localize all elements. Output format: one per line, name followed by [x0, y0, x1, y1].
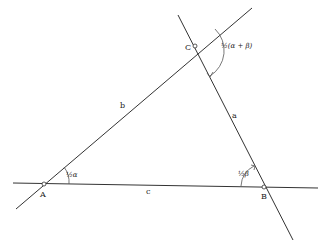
- side-label-b: b: [120, 101, 125, 110]
- side-label-a: a: [232, 111, 237, 120]
- side-label-c: c: [146, 187, 151, 196]
- angle-arc-c: [210, 29, 224, 76]
- triangle-diagram: A B C a b c ½α ½β ½(α + β): [0, 0, 327, 251]
- angle-label-a: ½α: [66, 171, 78, 179]
- vertex-a-marker: [42, 182, 46, 186]
- vertex-c-marker: [193, 44, 197, 48]
- line-ac: [16, 8, 252, 209]
- angle-label-b: ½β: [238, 170, 249, 178]
- angle-label-c: ½(α + β): [221, 42, 253, 50]
- line-ab: [13, 183, 318, 188]
- vertex-label-b: B: [261, 192, 267, 201]
- vertex-label-c: C: [185, 43, 191, 52]
- vertex-label-a: A: [39, 190, 46, 199]
- vertex-b-marker: [262, 185, 266, 189]
